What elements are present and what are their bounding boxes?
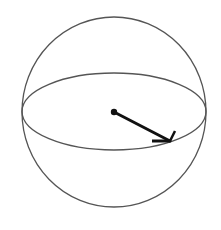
radius-vector-shaft — [114, 112, 170, 141]
sphere-diagram — [0, 0, 221, 230]
arrowhead-barb-icon — [170, 131, 175, 141]
center-point — [111, 109, 117, 115]
